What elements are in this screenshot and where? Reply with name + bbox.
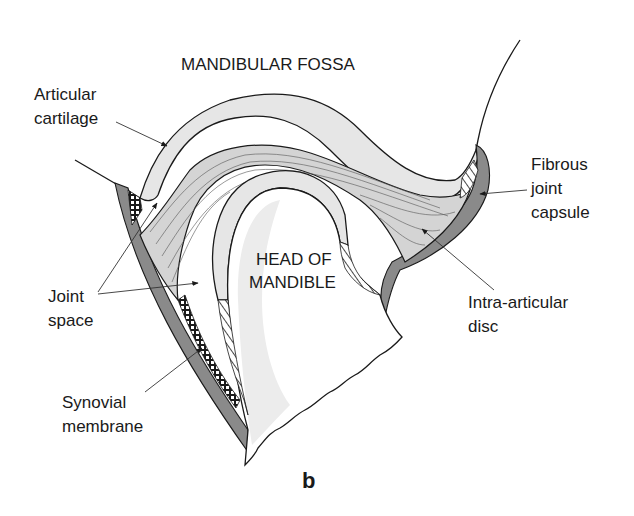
label-fibrous-capsule-2: joint bbox=[530, 179, 562, 198]
label-synovial-membrane-1: Synovial bbox=[62, 393, 126, 412]
label-fibrous-capsule-1: Fibrous bbox=[531, 155, 588, 174]
label-intra-articular-disc-1: Intra-articular bbox=[468, 293, 568, 312]
label-head-of-mandible-2: MANDIBLE bbox=[249, 273, 336, 292]
temporal-bone-edge-right bbox=[476, 40, 520, 150]
label-head-of-mandible-1: HEAD OF bbox=[256, 250, 332, 269]
label-articular-cartilage-2: cartilage bbox=[34, 109, 98, 128]
label-articular-cartilage-1: Articular bbox=[34, 85, 97, 104]
label-mandibular-fossa: MANDIBULAR FOSSA bbox=[181, 55, 355, 74]
label-intra-articular-disc-2: disc bbox=[468, 317, 499, 336]
tmj-diagram: MANDIBULAR FOSSA Articular cartilage Fib… bbox=[0, 0, 634, 516]
label-synovial-membrane-2: membrane bbox=[62, 417, 143, 436]
panel-letter: b bbox=[302, 468, 315, 493]
label-joint-space-1: Joint bbox=[48, 287, 84, 306]
leader-articular-cartilage bbox=[116, 122, 167, 146]
label-joint-space-2: space bbox=[48, 311, 93, 330]
leader-intra-articular-disc bbox=[422, 229, 494, 290]
label-fibrous-capsule-3: capsule bbox=[531, 203, 590, 222]
